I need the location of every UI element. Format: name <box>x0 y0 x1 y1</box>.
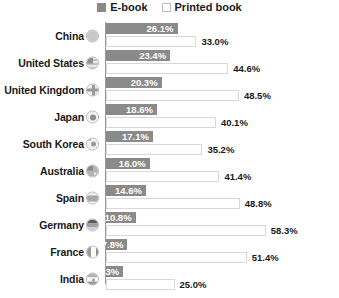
bar-value-ebook: 7.8% <box>102 239 124 250</box>
flag-japan-icon <box>86 110 99 123</box>
bar-value-ebook: 20.3% <box>131 77 158 88</box>
flag-china-icon <box>86 29 99 42</box>
bar-printed-book[interactable] <box>106 225 266 236</box>
bar-value-ebook: 14.6% <box>115 185 142 196</box>
bar-group: 17.1%35.2% <box>106 130 339 157</box>
bar-value-printed-book: 35.2% <box>207 144 234 155</box>
flag-united-kingdom-icon <box>86 83 99 96</box>
bar-value-ebook: 26.1% <box>147 23 174 34</box>
bar-row: Germany10.8%58.3% <box>0 211 339 238</box>
chart-legend: E-book Printed book <box>0 2 339 13</box>
bar-row: Japan18.6%40.1% <box>0 103 339 130</box>
category-label: Australia <box>0 157 84 184</box>
bar-printed-book[interactable] <box>106 36 196 47</box>
bar-value-printed-book: 41.4% <box>224 171 251 182</box>
category-label: China <box>0 22 84 49</box>
bar-printed-book[interactable] <box>106 198 240 209</box>
bar-value-ebook: 6.3% <box>98 266 120 277</box>
legend-label-ebook: E-book <box>110 2 147 13</box>
bar-group: 7.8%51.4% <box>106 238 339 265</box>
bar-value-ebook: 23.4% <box>139 50 166 61</box>
legend-item-ebook[interactable]: E-book <box>97 2 147 13</box>
bar-group: 20.3%48.5% <box>106 76 339 103</box>
category-label: South Korea <box>0 130 84 157</box>
bar-row: Spain14.6%48.8% <box>0 184 339 211</box>
bar-value-printed-book: 51.4% <box>252 252 279 263</box>
bar-row: United Kingdom20.3%48.5% <box>0 76 339 103</box>
bar-printed-book[interactable] <box>106 63 228 74</box>
category-label: Spain <box>0 184 84 211</box>
flag-australia-icon <box>86 164 99 177</box>
category-label: Japan <box>0 103 84 130</box>
bar-row: India6.3%25.0% <box>0 265 339 292</box>
bar-value-ebook: 17.1% <box>122 131 149 142</box>
ebook-vs-printed-book-chart: E-book Printed book China26.1%33.0%Unite… <box>0 0 339 298</box>
bar-row: China26.1%33.0% <box>0 22 339 49</box>
bar-group: 23.4%44.6% <box>106 49 339 76</box>
category-label: United Kingdom <box>0 76 84 103</box>
bar-value-printed-book: 33.0% <box>201 36 228 47</box>
bar-row: France7.8%51.4% <box>0 238 339 265</box>
flag-germany-icon <box>86 218 99 231</box>
plot-area: China26.1%33.0%United States23.4%44.6%Un… <box>0 20 339 296</box>
ebook-swatch-icon <box>97 3 106 12</box>
category-label: Germany <box>0 211 84 238</box>
bar-value-ebook: 16.0% <box>119 158 146 169</box>
bar-value-printed-book: 25.0% <box>180 279 207 290</box>
bar-value-printed-book: 48.5% <box>244 90 271 101</box>
bar-printed-book[interactable] <box>106 90 239 101</box>
bar-group: 10.8%58.3% <box>106 211 339 238</box>
category-label: India <box>0 265 84 292</box>
bar-value-ebook: 18.6% <box>126 104 153 115</box>
bar-group: 14.6%48.8% <box>106 184 339 211</box>
bar-group: 26.1%33.0% <box>106 22 339 49</box>
bar-printed-book[interactable] <box>106 171 219 182</box>
bar-printed-book[interactable] <box>106 117 216 128</box>
bar-group: 18.6%40.1% <box>106 103 339 130</box>
flag-france-icon <box>86 245 99 258</box>
flag-south-korea-icon <box>86 137 99 150</box>
bar-value-ebook: 10.8% <box>105 212 132 223</box>
bar-value-printed-book: 58.3% <box>271 225 298 236</box>
bar-value-printed-book: 40.1% <box>221 117 248 128</box>
bar-row: United States23.4%44.6% <box>0 49 339 76</box>
bar-group: 16.0%41.4% <box>106 157 339 184</box>
bar-row: Australia16.0%41.4% <box>0 157 339 184</box>
bar-row: South Korea17.1%35.2% <box>0 130 339 157</box>
bar-value-printed-book: 48.8% <box>245 198 272 209</box>
legend-label-printed-book: Printed book <box>175 2 242 13</box>
bar-printed-book[interactable] <box>106 252 247 263</box>
printed-book-swatch-icon <box>162 3 171 12</box>
legend-item-printed-book[interactable]: Printed book <box>162 2 242 13</box>
bar-group: 6.3%25.0% <box>106 265 339 292</box>
bar-value-printed-book: 44.6% <box>233 63 260 74</box>
flag-spain-icon <box>86 191 99 204</box>
bar-printed-book[interactable] <box>106 144 202 155</box>
category-label: United States <box>0 49 84 76</box>
bar-printed-book[interactable] <box>106 279 175 290</box>
flag-united-states-icon <box>86 56 99 69</box>
category-label: France <box>0 238 84 265</box>
